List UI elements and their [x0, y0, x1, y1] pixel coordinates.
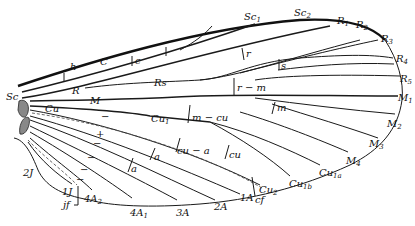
label-cu1a: Cu1a	[319, 167, 342, 180]
label-jf: jf	[61, 199, 72, 210]
axillary-sclerite	[20, 117, 30, 134]
label-2j: 2J	[22, 167, 34, 178]
label-s-crossvein: s	[281, 60, 286, 71]
vein-m2	[255, 98, 395, 114]
label-r1: R1	[336, 15, 349, 28]
label-m: M	[89, 95, 101, 106]
label-m-cu: m − cu	[192, 112, 228, 123]
label-cu1b: Cu1b	[289, 178, 313, 191]
label-cu-crossvein: cu	[229, 149, 241, 160]
sign-concave: −	[93, 138, 101, 149]
sign-concave: −	[87, 152, 95, 163]
label-r-crossvein: r	[246, 48, 252, 59]
label-4a2: 4A2	[83, 193, 103, 206]
label-h: h	[70, 61, 76, 72]
jf-bracket	[74, 186, 78, 205]
label-m2: M2	[386, 118, 402, 131]
label-sc1: Sc1	[244, 11, 261, 24]
label-r-m: r − m	[237, 82, 266, 93]
label-cu1: Cu1	[151, 113, 170, 126]
sign-concave: −	[101, 111, 109, 122]
label-a-crossvein-1: a	[154, 151, 160, 162]
label-cf: cf	[255, 194, 267, 205]
label-cu: Cu	[45, 103, 59, 114]
label-sc: Sc	[6, 91, 19, 102]
vein-cu1a	[210, 122, 320, 165]
label-r5: R5	[399, 73, 413, 86]
label-r2: R2	[355, 19, 369, 32]
label-2a: 2A	[213, 201, 228, 212]
label-4a1: 4A1	[129, 207, 148, 220]
label-c-vein: C	[100, 56, 108, 67]
vein-m3	[272, 104, 378, 138]
label-3a: 3A	[176, 207, 190, 218]
label-m1: M1	[397, 92, 413, 105]
label-1j: 1J	[62, 186, 73, 197]
label-sc2: Sc2	[294, 7, 311, 20]
vein-r3	[240, 40, 378, 73]
vein-r5	[255, 75, 400, 80]
humeral-plate	[18, 100, 28, 117]
label-m-crossvein: m	[277, 102, 286, 113]
label-c-cell: c	[135, 55, 141, 66]
label-rs: Rs	[153, 77, 167, 88]
wing-costal-margin	[18, 20, 385, 86]
label-m3: M3	[368, 138, 384, 151]
vein-m	[30, 95, 398, 101]
vein-m4	[240, 112, 348, 152]
label-a-crossvein-2: a	[131, 163, 137, 174]
sign-concave: −	[76, 174, 84, 185]
wing-venation-diagram: C h Sc Sc1 Sc2 c R Rs r s r − m R1 R2 R3…	[0, 0, 415, 226]
label-cu-a: cu − a	[177, 145, 210, 156]
label-r: R	[71, 85, 80, 96]
crossvein-r	[242, 48, 244, 60]
label-1a: 1A	[240, 192, 254, 203]
vein-r4	[278, 63, 394, 70]
label-r3: R3	[380, 33, 394, 46]
